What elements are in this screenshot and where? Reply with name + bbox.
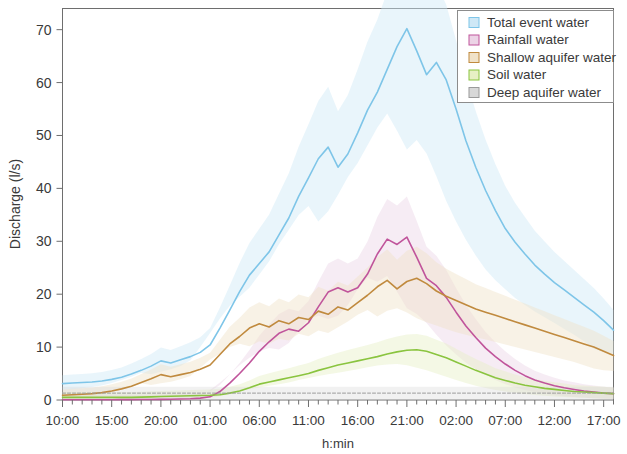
legend-label: Soil water: [487, 67, 547, 82]
x-tick-label: 21:00: [390, 413, 424, 428]
legend-swatch: [469, 70, 479, 80]
legend-swatch: [469, 18, 479, 28]
legend-swatch: [469, 53, 479, 63]
x-tick-label: 17:00: [587, 413, 621, 428]
x-tick-label: 01:00: [193, 413, 227, 428]
x-tick-label: 06:00: [242, 413, 276, 428]
y-tick-label: 20: [36, 286, 52, 302]
x-tick-label: 12:00: [538, 413, 572, 428]
x-tick-label: 16:00: [341, 413, 375, 428]
y-tick-label: 60: [36, 75, 52, 91]
x-axis-label: h:min: [322, 436, 354, 451]
x-tick-label: 02:00: [439, 413, 473, 428]
y-axis-label: Discharge (l/s): [7, 159, 23, 249]
y-tick-label: 40: [36, 180, 52, 196]
legend-swatch: [469, 35, 479, 45]
y-tick-label: 0: [44, 392, 52, 408]
y-tick-label: 10: [36, 339, 52, 355]
hydrograph-chart: 010203040506070 10:0015:0020:0001:0006:0…: [0, 0, 627, 454]
y-tick-label: 70: [36, 22, 52, 38]
legend-label: Deep aquifer water: [487, 85, 602, 100]
x-tick-label: 20:00: [144, 413, 178, 428]
x-tick-label: 11:00: [292, 413, 325, 428]
y-tick-label: 30: [36, 233, 52, 249]
legend-label: Shallow aquifer water: [487, 50, 617, 65]
legend-label: Rainfall water: [487, 32, 569, 47]
x-tick-label: 10:00: [46, 413, 80, 428]
chart-legend: Total event waterRainfall waterShallow a…: [458, 11, 617, 103]
y-tick-label: 50: [36, 127, 52, 143]
x-tick-label: 07:00: [488, 413, 522, 428]
legend-label: Total event water: [487, 15, 590, 30]
legend-swatch: [469, 88, 479, 98]
x-tick-label: 15:00: [95, 413, 129, 428]
